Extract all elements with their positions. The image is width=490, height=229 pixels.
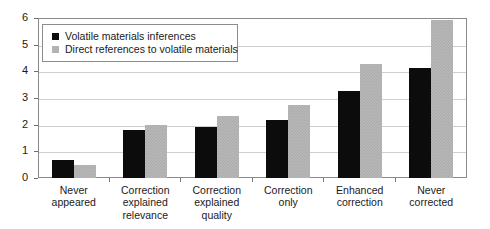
- bar: [431, 20, 453, 178]
- bar-chart: 0123456 Never appearedCorrection explain…: [0, 0, 490, 229]
- y-tick-label: 3: [6, 92, 28, 103]
- chart-legend: Volatile materials inferences Direct ref…: [42, 24, 238, 62]
- bar: [409, 68, 431, 178]
- bar: [360, 64, 382, 178]
- bar: [52, 160, 74, 178]
- legend-swatch-icon: [52, 46, 59, 53]
- legend-item: Volatile materials inferences: [52, 30, 230, 43]
- x-category-label: Enhanced correction: [324, 184, 396, 221]
- y-tick-label: 0: [6, 172, 28, 183]
- x-category-label: Correction explained quality: [181, 184, 253, 221]
- bar: [145, 125, 167, 178]
- legend-swatch-icon: [52, 33, 59, 40]
- bar: [123, 130, 145, 178]
- x-category-label: Correction explained relevance: [110, 184, 182, 221]
- legend-item-label: Direct references to volatile materials: [65, 43, 238, 56]
- y-tick-label: 2: [6, 119, 28, 130]
- x-tick-mark: [252, 178, 253, 182]
- y-tick-label: 1: [6, 145, 28, 156]
- bar: [74, 165, 96, 178]
- x-tick-mark: [395, 178, 396, 182]
- legend-item: Direct references to volatile materials: [52, 43, 230, 56]
- bar: [195, 127, 217, 178]
- bar-group: [324, 18, 396, 178]
- x-axis-category-labels: Never appearedCorrection explained relev…: [38, 184, 467, 221]
- x-tick-mark: [323, 178, 324, 182]
- bar-group: [396, 18, 468, 178]
- bar-group: [253, 18, 325, 178]
- bar: [338, 91, 360, 178]
- y-tick-label: 6: [6, 12, 28, 23]
- y-tick-label: 5: [6, 39, 28, 50]
- bar: [266, 120, 288, 178]
- x-tick-mark: [109, 178, 110, 182]
- legend-item-label: Volatile materials inferences: [65, 30, 196, 43]
- y-tick-mark: [34, 178, 38, 179]
- x-category-label: Never corrected: [396, 184, 468, 221]
- bar: [217, 116, 239, 178]
- x-tick-mark: [180, 178, 181, 182]
- y-axis: 0123456: [0, 0, 38, 229]
- bar: [288, 105, 310, 178]
- x-category-label: Never appeared: [38, 184, 110, 221]
- x-category-label: Correction only: [253, 184, 325, 221]
- y-tick-label: 4: [6, 65, 28, 76]
